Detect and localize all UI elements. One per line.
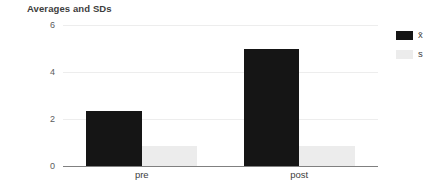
y-axis-tick-label: 0 [50, 161, 55, 171]
chart-title: Averages and SDs [27, 3, 112, 14]
chart-container: Averages and SDs 0246 prepost x̄s [0, 0, 437, 190]
x-axis-line [63, 166, 378, 167]
legend-label: s [418, 49, 423, 59]
x-axis-category-label: post [290, 169, 308, 180]
y-axis-tick-labels: 0246 [28, 25, 55, 166]
legend-swatch-icon [396, 31, 413, 40]
x-axis-category-labels: prepost [63, 169, 378, 185]
bar-pre-series-1 [142, 146, 198, 166]
x-axis-category-label: pre [135, 169, 149, 180]
y-axis-tick-label: 2 [50, 114, 55, 124]
legend-item[interactable]: x̄ [396, 27, 437, 43]
bar-post-series-1 [299, 146, 355, 166]
y-axis-tick-label: 6 [50, 20, 55, 30]
bar-post-series-0 [244, 49, 300, 167]
legend-label: x̄ [418, 30, 423, 40]
chart-legend: x̄s [396, 27, 437, 65]
legend-item[interactable]: s [396, 46, 437, 62]
legend-swatch-icon [396, 50, 413, 59]
bar-pre-series-0 [86, 111, 142, 166]
plot-area [63, 25, 378, 166]
bars-layer [63, 25, 378, 166]
y-axis-tick-label: 4 [50, 67, 55, 77]
